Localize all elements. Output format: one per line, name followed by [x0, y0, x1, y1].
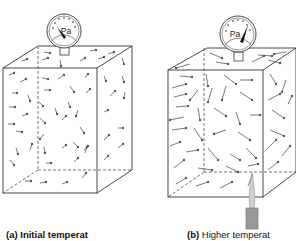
- box-b: [168, 48, 296, 197]
- panel-a: Pa: [3, 14, 132, 193]
- gas-pressure-figure: Pa: [0, 0, 296, 241]
- gauge-unit-label: Pa: [230, 29, 241, 39]
- caption-panel-b: (b) Higher temperat: [187, 229, 270, 241]
- caption-text: Initial temperat: [20, 229, 88, 240]
- molecules-a: [8, 50, 125, 184]
- pressure-gauge-b: Pa: [220, 16, 256, 61]
- caption-panel-a: (a) Initial temperat: [6, 229, 88, 241]
- box-a: [3, 46, 132, 193]
- burner-flame-icon: [246, 172, 258, 229]
- molecules-b: [170, 52, 292, 188]
- caption-text: Higher temperat: [202, 229, 270, 240]
- caption-tag: (b): [187, 229, 199, 240]
- caption-tag: (a): [6, 229, 18, 240]
- pressure-gauge-a: Pa: [47, 14, 81, 55]
- gauge-neck-icon: [234, 52, 243, 61]
- panel-b: Pa: [168, 16, 296, 229]
